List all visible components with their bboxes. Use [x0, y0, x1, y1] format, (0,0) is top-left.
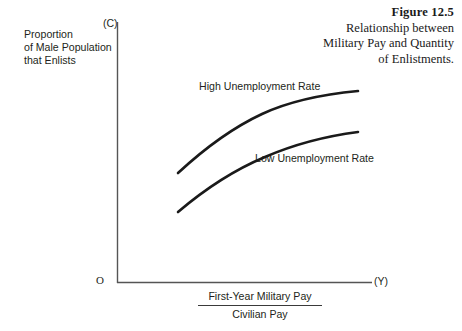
figure-container: Figure 12.5 Relationship between Militar…	[0, 0, 462, 331]
plot-area	[0, 0, 462, 331]
curve-low-unemployment	[178, 132, 358, 212]
curve-high-unemployment	[178, 91, 358, 173]
